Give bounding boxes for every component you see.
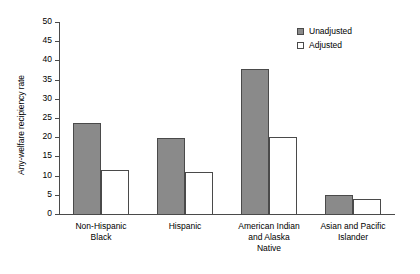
y-tick-label: 25 (43, 112, 52, 123)
y-tick-label: 15 (43, 150, 52, 161)
y-tick-label: 10 (43, 170, 52, 181)
y-tick-label: 20 (43, 131, 52, 142)
x-category-label: Asian and Pacific Islander (305, 221, 401, 243)
y-tick: 25 (55, 118, 59, 119)
y-tick-label: 30 (43, 93, 52, 104)
x-category-label: Hispanic (137, 221, 233, 232)
legend: UnadjustedAdjusted (297, 24, 352, 52)
bar-unadjusted-2 (241, 69, 269, 215)
y-tick: 0 (55, 214, 59, 215)
y-tick: 10 (55, 176, 59, 177)
y-tick-label: 5 (47, 189, 52, 200)
bar-adjusted-3 (353, 199, 381, 215)
bar-chart: Any-welfare recipiency rate 504540353025… (0, 0, 420, 274)
y-tick: 20 (55, 137, 59, 138)
bar-unadjusted-3 (325, 195, 353, 215)
y-tick: 30 (55, 99, 59, 100)
y-tick-label: 0 (47, 208, 52, 219)
x-category-label: American Indian and Alaska Native (221, 221, 317, 254)
x-category-label: Non-Hispanic Black (53, 221, 149, 243)
bar-adjusted-1 (185, 172, 213, 215)
legend-label: Adjusted (309, 40, 342, 50)
y-tick-label: 45 (43, 35, 52, 46)
y-tick: 50 (55, 22, 59, 23)
bar-adjusted-0 (101, 170, 129, 215)
y-tick-label: 35 (43, 74, 52, 85)
legend-swatch-hollow (297, 42, 304, 49)
y-axis-line (59, 22, 60, 214)
y-tick: 5 (55, 195, 59, 196)
legend-item: Unadjusted (297, 24, 352, 38)
bar-adjusted-2 (269, 137, 297, 215)
bar-unadjusted-1 (157, 138, 185, 215)
y-tick: 35 (55, 80, 59, 81)
legend-swatch-filled (297, 28, 304, 35)
y-tick: 45 (55, 41, 59, 42)
y-tick-label: 50 (43, 16, 52, 27)
legend-item: Adjusted (297, 38, 352, 52)
y-tick: 40 (55, 60, 59, 61)
legend-label: Unadjusted (309, 26, 352, 36)
y-axis-title: Any-welfare recipiency rate (14, 18, 28, 232)
y-tick-label: 40 (43, 54, 52, 65)
bar-unadjusted-0 (73, 123, 101, 215)
y-tick: 15 (55, 156, 59, 157)
